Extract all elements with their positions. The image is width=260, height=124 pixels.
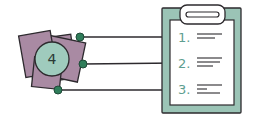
checklist-number-1: 1. xyxy=(178,30,190,45)
connector-dot-2 xyxy=(79,60,87,68)
hub-label: 4 xyxy=(48,51,57,67)
connector-dot-3 xyxy=(54,86,62,94)
checklist-number-2: 2. xyxy=(178,56,190,71)
diagram-canvas: 4 1. 2. 3. xyxy=(0,0,260,124)
connector-dot-1 xyxy=(76,33,84,41)
clipboard: 1. 2. 3. xyxy=(162,5,241,113)
checklist-number-3: 3. xyxy=(178,82,190,97)
clipboard-clip-slot xyxy=(186,12,219,17)
